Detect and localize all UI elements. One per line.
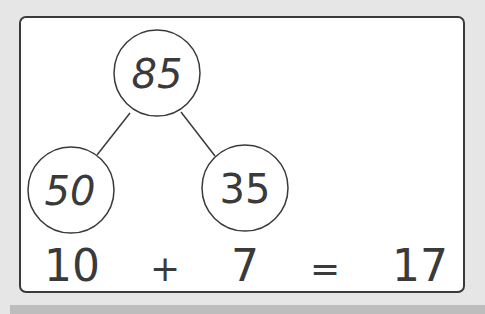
right-child-value: 35 <box>220 166 271 212</box>
number-bond-diagram: 85 50 35 10 + 7 = 17 <box>0 0 485 314</box>
equation-right: 7 <box>231 240 259 291</box>
child-node-left: 50 <box>28 147 114 233</box>
equation-left: 10 <box>44 240 100 291</box>
connector-right <box>181 112 215 156</box>
equation: 10 + 7 = 17 <box>44 240 448 291</box>
root-node: 85 <box>114 30 200 116</box>
equation-result: 17 <box>392 240 448 291</box>
equation-operator: + <box>150 248 180 289</box>
child-node-right: 35 <box>202 145 288 231</box>
left-child-value: 50 <box>45 168 96 214</box>
root-value: 85 <box>132 51 183 97</box>
equation-equals: = <box>310 248 340 289</box>
connector-left <box>97 113 130 155</box>
